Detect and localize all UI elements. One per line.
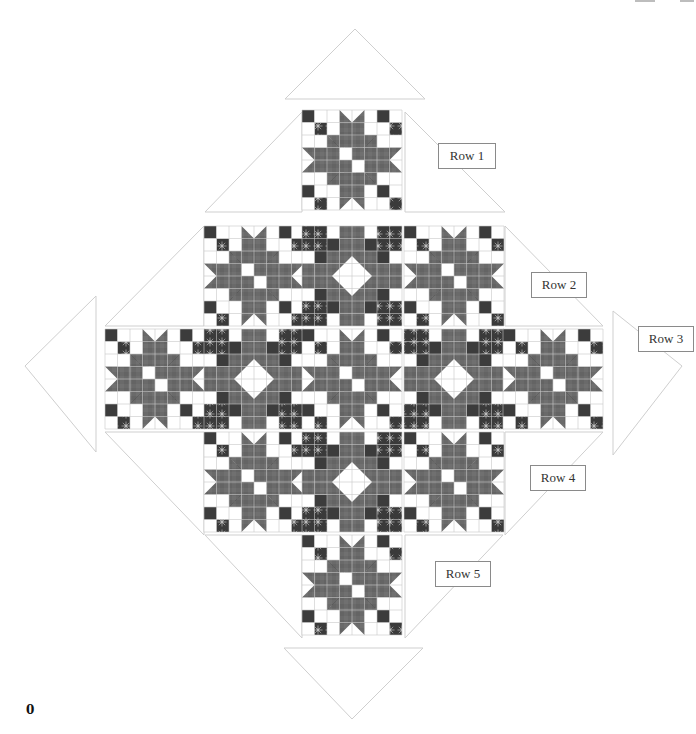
setting-triangle-left-inner xyxy=(105,226,204,326)
quilt-row-4 xyxy=(204,432,504,532)
star-block xyxy=(302,329,402,429)
setting-triangle-bottom xyxy=(284,648,423,719)
row-label-4: Row 4 xyxy=(530,465,586,491)
setting-triangle-bottom-left xyxy=(205,535,302,638)
star-block xyxy=(503,329,603,429)
row-label-2: Row 2 xyxy=(531,272,587,298)
diamond-block xyxy=(302,226,402,326)
star-block xyxy=(404,226,504,326)
setting-triangle-left-inner-low xyxy=(105,432,204,535)
quilt-row-1 xyxy=(302,110,402,210)
quilt-layout-svg xyxy=(0,0,696,734)
quilt-row-3 xyxy=(105,329,603,429)
diamond-block xyxy=(404,329,504,429)
setting-triangle-left-big xyxy=(25,296,96,452)
star-block xyxy=(204,226,304,326)
star-block xyxy=(302,110,402,210)
row-label-1: Row 1 xyxy=(438,143,496,169)
quilt-blocks xyxy=(105,110,603,635)
row-label-5: Row 5 xyxy=(435,561,491,587)
setting-triangle-top xyxy=(285,29,425,99)
quilt-row-5 xyxy=(302,535,402,635)
corner-mark-left xyxy=(635,0,655,2)
diamond-block xyxy=(204,329,304,429)
quilt-diagram: Row 1Row 2Row 3Row 4Row 5 0 xyxy=(0,0,696,734)
star-block xyxy=(105,329,205,429)
diamond-block xyxy=(302,432,402,532)
setting-triangle-row1-sides xyxy=(205,112,302,212)
row-label-3: Row 3 xyxy=(638,326,694,352)
star-block xyxy=(404,432,504,532)
quilt-row-2 xyxy=(204,226,504,326)
star-block xyxy=(204,432,304,532)
corner-mark-right xyxy=(680,0,694,2)
star-block xyxy=(302,535,402,635)
page-number: 0 xyxy=(26,703,34,717)
